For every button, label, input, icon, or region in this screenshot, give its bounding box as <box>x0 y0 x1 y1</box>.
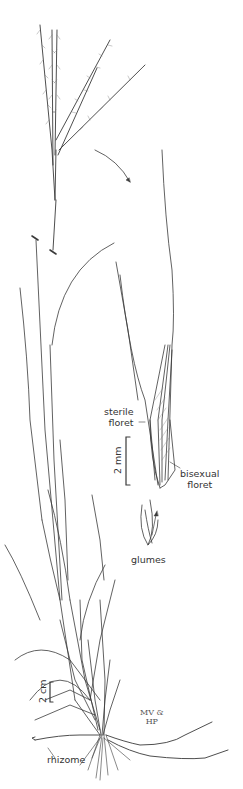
label-sterile-line1: sterile <box>104 406 134 417</box>
culm-upper <box>53 200 56 250</box>
scale-label-2cm: 2 cm <box>37 679 48 703</box>
label-bisexual-floret: bisexual floret <box>180 468 219 490</box>
scale-label-2mm: 2 mm <box>112 446 123 474</box>
label-sterile-line2: floret <box>104 417 134 428</box>
label-rhizome: rhizome <box>47 754 85 765</box>
label-glumes: glumes <box>131 554 166 565</box>
arrow <box>95 150 130 182</box>
arrow-head <box>126 178 130 182</box>
break-mark <box>50 250 56 254</box>
label-bisexual-line1: bisexual <box>180 468 219 479</box>
glumes <box>141 500 158 545</box>
label-sterile-floret: sterile floret <box>104 406 134 428</box>
arrow-glumes-head <box>154 511 158 516</box>
grass-illustration <box>0 0 243 789</box>
break-mark <box>32 236 38 240</box>
artist-signature: MV & HP <box>140 708 164 726</box>
signature-line1: MV & <box>140 708 164 717</box>
scale-bar-2mm <box>126 437 130 485</box>
culm-and-leaves <box>5 240 138 735</box>
signature-line2: HP <box>140 717 164 726</box>
scale-bar-2cm <box>50 682 53 702</box>
label-bisexual-line2: floret <box>180 479 219 490</box>
roots <box>80 735 130 780</box>
